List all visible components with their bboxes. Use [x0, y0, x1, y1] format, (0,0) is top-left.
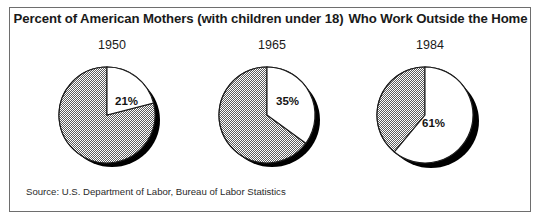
pie-chart-1984: 61% — [375, 62, 485, 174]
pie-value-label-1965: 35% — [276, 95, 299, 107]
chart-figure: Percent of American Mothers (with childr… — [0, 0, 541, 219]
chart-title: Percent of American Mothers (with childr… — [0, 11, 541, 26]
year-label-1984: 1984 — [385, 38, 475, 52]
pie-svg-1965 — [217, 62, 327, 174]
pie-chart-1950: 21% — [57, 62, 167, 174]
pie-chart-1965: 35% — [217, 62, 327, 174]
source-note: Source: U.S. Department of Labor, Bureau… — [26, 186, 286, 197]
pie-value-label-1984: 61% — [422, 117, 445, 129]
pie-value-label-1950: 21% — [115, 95, 138, 107]
chart-title-part-1: Percent of American Mothers (with childr… — [14, 11, 344, 26]
year-label-1950: 1950 — [67, 38, 157, 52]
chart-title-part-2: Who Work Outside the Home — [348, 11, 527, 26]
year-label-1965: 1965 — [227, 38, 317, 52]
pie-svg-1950 — [57, 62, 167, 174]
